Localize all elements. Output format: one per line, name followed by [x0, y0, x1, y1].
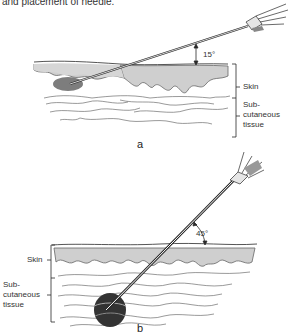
- panel-a-bleb: [53, 77, 83, 91]
- panel-b-skin-label: Skin: [27, 255, 43, 265]
- panel-b-skin: [52, 243, 257, 266]
- panel-b-subcutaneous-fat: [58, 272, 250, 326]
- panel-b-bleb: [94, 293, 126, 327]
- panel-b-angle-label: 45°: [196, 229, 208, 239]
- panel-a-bracket: [232, 64, 240, 137]
- panel-b-subcutaneous-label-3: tissue: [3, 300, 24, 310]
- panel-a-subcutaneous-label-1: Sub-: [243, 100, 260, 110]
- panel-b-subcutaneous-label-2: cutaneous: [3, 290, 40, 300]
- panel-a-subcutaneous-label-3: tissue: [243, 120, 264, 130]
- panel-a-angle-label: 15°: [203, 50, 215, 60]
- panel-a-angle-marker: [194, 44, 198, 65]
- panel-a-skin-label: Skin: [243, 82, 259, 92]
- panel-a-subcutaneous-fat: [44, 96, 230, 124]
- panel-b-letter: b: [137, 322, 143, 334]
- panel-b-needle: [106, 152, 264, 310]
- panel-a-letter: a: [137, 138, 143, 150]
- panel-a-subcutaneous-label-2: cutaneous: [243, 110, 280, 120]
- panel-b-bracket: [47, 245, 55, 322]
- panel-b-subcutaneous-label-1: Sub-: [3, 280, 20, 290]
- diagram-illustration: [0, 0, 291, 335]
